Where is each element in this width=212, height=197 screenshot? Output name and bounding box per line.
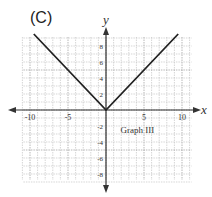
y-tick-label: -2	[97, 123, 103, 131]
y-tick-label: 6	[100, 59, 104, 67]
y-tick-label: -4	[97, 139, 103, 147]
x-tick-label: 10	[178, 113, 186, 122]
chart: x y -10-55108642-2-4-6-8 Graph III	[0, 0, 212, 197]
y-axis-label: y	[101, 12, 109, 27]
x-tick-label: -10	[25, 113, 36, 122]
x-axis-arrow-right	[193, 107, 201, 113]
y-axis-arrow-bottom	[103, 185, 109, 193]
y-tick-label: -6	[97, 155, 103, 163]
x-axis-arrow-left	[8, 107, 16, 113]
y-axis-arrow-top	[103, 27, 109, 35]
y-tick-label: -8	[97, 171, 103, 179]
y-tick-label: 2	[100, 91, 104, 99]
x-axis-label: x	[200, 102, 207, 117]
y-tick-label: 4	[100, 75, 104, 83]
x-tick-label: -5	[65, 113, 72, 122]
graph-annotation: Graph III	[121, 125, 155, 135]
y-tick-label: 8	[100, 43, 104, 51]
x-tick-label: 5	[142, 113, 146, 122]
tick-labels: -10-55108642-2-4-6-8	[25, 43, 186, 179]
